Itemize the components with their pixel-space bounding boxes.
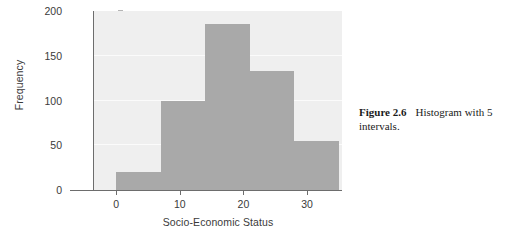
x-axis-tick-mark (180, 190, 181, 195)
x-axis-tick-label: 30 (287, 198, 327, 210)
x-axis-tick-mark (307, 190, 308, 195)
y-axis-tick-label: 0 (30, 184, 62, 196)
histogram-bar (205, 24, 250, 190)
x-axis-title: Socio-Economic Status (94, 216, 342, 228)
x-axis-tick-label: 10 (160, 198, 200, 210)
y-axis-tick-label: 100 (30, 95, 62, 107)
x-axis-tick-label: 0 (96, 198, 136, 210)
figure-caption-label: Figure 2.6 (359, 106, 406, 118)
figure-caption: Figure 2.6Histogram with 5 intervals. (359, 105, 505, 133)
x-axis-tick-mark (116, 190, 117, 195)
y-axis-tick-label: 150 (30, 50, 62, 62)
y-axis-title: Frequency (13, 40, 25, 130)
histogram-chart: Frequency 050100150200 0102030 Socio-Eco… (0, 0, 355, 246)
x-axis-tick-label: 20 (223, 198, 263, 210)
y-axis-tick-label: 200 (30, 5, 62, 17)
histogram-bar (161, 101, 206, 191)
y-axis-tick-labels: 050100150200 (30, 0, 62, 246)
histogram-bar (116, 172, 161, 190)
histogram-bar (294, 141, 339, 190)
y-axis-tick-label: 50 (30, 139, 62, 151)
x-axis-line (70, 190, 342, 191)
x-axis-tick-mark (243, 190, 244, 195)
figure-container: Frequency 050100150200 0102030 Socio-Eco… (0, 0, 509, 246)
plot-area (94, 11, 342, 190)
histogram-bar (250, 71, 295, 190)
